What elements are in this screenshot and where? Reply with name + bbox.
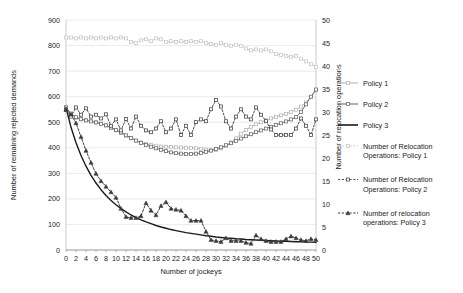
data-point (190, 147, 193, 150)
x-tick-label: 8 (104, 254, 108, 263)
data-point (90, 36, 93, 39)
data-point (70, 36, 73, 39)
data-point (95, 121, 98, 124)
data-point (310, 134, 313, 137)
data-point (139, 214, 143, 218)
data-point (79, 135, 83, 139)
data-point (195, 121, 198, 124)
data-point (160, 38, 163, 41)
data-point (65, 36, 68, 39)
data-point (125, 134, 128, 137)
data-point (225, 120, 228, 123)
data-point (130, 137, 133, 140)
data-point (300, 111, 303, 114)
y-axis-title: Number of remaining rejected demands (9, 70, 18, 200)
data-point (195, 152, 198, 155)
data-point (190, 134, 193, 137)
data-point (240, 44, 243, 47)
data-point (284, 237, 288, 241)
data-point (164, 200, 168, 204)
x-tick-label: 38 (252, 254, 260, 263)
data-point (150, 145, 153, 148)
x-tick-label: 46 (292, 254, 300, 263)
data-point (75, 106, 78, 109)
data-point (105, 124, 108, 127)
legend-label-line2: Operations: Policy 2 (363, 185, 427, 194)
data-point (280, 122, 283, 125)
data-point (80, 118, 83, 121)
data-point (110, 36, 113, 39)
data-point (235, 139, 238, 142)
y2-tick-label: 35 (322, 85, 330, 94)
data-point (165, 150, 168, 153)
data-point (175, 146, 178, 149)
data-point (165, 41, 168, 44)
data-point (235, 43, 238, 46)
series-5 (65, 99, 318, 137)
data-point (150, 40, 153, 43)
data-point (180, 134, 183, 137)
data-point (144, 201, 148, 205)
y2-tick-label: 0 (322, 246, 326, 255)
data-point (315, 118, 318, 121)
y2-tick-label: 45 (322, 39, 330, 48)
series-line (66, 90, 316, 154)
data-point (200, 118, 203, 121)
x-tick-label: 48 (302, 254, 310, 263)
legend-item-1[interactable]: Policy 1 (338, 79, 388, 88)
data-point (220, 42, 223, 45)
legend-swatch-marker (347, 103, 350, 106)
data-point (210, 42, 213, 45)
data-point (165, 131, 168, 134)
data-point (105, 37, 108, 40)
legend-item-5[interactable]: Number of RelocationOperations: Policy 2 (338, 175, 433, 194)
data-point (150, 131, 153, 134)
x-axis-ticks: 0246810121416182022242628303234363840424… (64, 250, 320, 263)
data-point (300, 117, 303, 120)
data-point (185, 41, 188, 44)
data-point (230, 44, 233, 47)
series-2 (65, 88, 318, 155)
data-point (75, 37, 78, 40)
data-point (310, 63, 313, 66)
y-tick-label: 600 (48, 92, 60, 101)
legend-item-4[interactable]: Number of RelocationOperations: Policy 1 (338, 142, 433, 161)
data-point (300, 57, 303, 60)
data-point (275, 115, 278, 118)
legend-swatch-marker (347, 82, 350, 85)
data-point (280, 114, 283, 117)
y2-tick-label: 20 (322, 154, 330, 163)
x-axis-title: Number of jockeys (160, 267, 222, 276)
data-point (95, 113, 98, 116)
data-point (170, 40, 173, 43)
x-tick-label: 30 (212, 254, 220, 263)
data-point (285, 54, 288, 57)
data-point (235, 115, 238, 118)
data-point (200, 40, 203, 43)
x-tick-label: 26 (192, 254, 200, 263)
legend-item-3[interactable]: Policy 3 (338, 121, 388, 130)
x-tick-label: 44 (282, 254, 290, 263)
data-point (250, 49, 253, 52)
data-point (230, 142, 233, 145)
data-point (130, 127, 133, 130)
data-point (90, 120, 93, 123)
data-point (190, 152, 193, 155)
data-point (140, 39, 143, 42)
x-tick-label: 50 (312, 254, 320, 263)
data-point (290, 55, 293, 58)
data-point (315, 88, 318, 91)
data-point (170, 151, 173, 154)
data-point (255, 106, 258, 109)
data-point (275, 124, 278, 127)
x-tick-label: 2 (74, 254, 78, 263)
data-point (125, 117, 128, 120)
legend-item-2[interactable]: Policy 2 (338, 100, 388, 109)
data-point (265, 120, 268, 123)
x-tick-label: 40 (262, 254, 270, 263)
legend-item-6[interactable]: Number of relocationoperations: Policy 3 (338, 209, 430, 228)
y2-axis-title: Number of relocation operations (334, 64, 343, 169)
data-point (84, 149, 88, 153)
data-point (195, 147, 198, 150)
x-tick-label: 22 (172, 254, 180, 263)
